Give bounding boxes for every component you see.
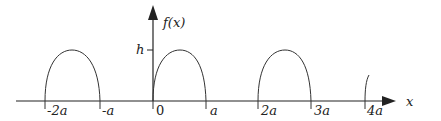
- tick-label-0: 0: [156, 103, 164, 118]
- arch-2: [153, 50, 206, 101]
- arch-4-partial: [365, 75, 369, 101]
- tick-label-3a: 3a: [314, 103, 330, 118]
- tick-label-2a: 2a: [260, 103, 277, 118]
- arch-3: [258, 50, 311, 101]
- x-axis-label: x: [406, 94, 414, 109]
- x-axis-arrow-icon: [382, 96, 396, 106]
- tick-label-4a: 4a: [366, 103, 383, 118]
- tick-label-neg-a: -a: [102, 103, 114, 118]
- periodic-function-diagram: x f(x) h -2a -a 0 a 2a 3a 4a: [0, 0, 441, 121]
- height-label: h: [136, 42, 144, 57]
- y-axis-arrow-icon: [148, 5, 158, 20]
- y-axis-label: f(x): [162, 15, 185, 30]
- tick-label-a: a: [210, 103, 218, 118]
- tick-label-neg-2a: -2a: [47, 103, 67, 118]
- arch-1: [45, 50, 100, 101]
